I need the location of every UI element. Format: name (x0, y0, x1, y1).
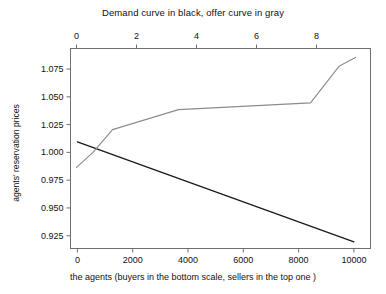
y-tick-label: 1.050 (41, 92, 64, 102)
x-tick-label-top: 8 (314, 31, 319, 41)
x-tick-label-bottom: 8000 (289, 255, 309, 265)
chart-title: Demand curve in black, offer curve in gr… (0, 7, 386, 18)
x-tick-label-bottom: 0 (75, 255, 80, 265)
y-tick-label: 0.975 (41, 175, 64, 185)
x-tick-label-top: 6 (254, 31, 259, 41)
y-tick-label: 1.025 (41, 120, 64, 130)
x-tick-label-top: 0 (74, 31, 79, 41)
x-tick-label-bottom: 2000 (123, 255, 143, 265)
series-line-offer-curve (77, 57, 356, 167)
series-line-demand-curve (77, 142, 354, 242)
x-tick-label-bottom: 10000 (341, 255, 366, 265)
x-tick-label-top: 4 (194, 31, 199, 41)
x-tick-label-bottom: 4000 (178, 255, 198, 265)
y-tick-label: 1.075 (41, 64, 64, 74)
y-axis-label: agents' reservation prices (11, 73, 21, 233)
chart-figure: Demand curve in black, offer curve in gr… (0, 0, 386, 294)
x-tick-label-bottom: 6000 (233, 255, 253, 265)
y-tick-label: 0.950 (41, 203, 64, 213)
x-axis-label: the agents (buyers in the bottom scale, … (0, 272, 386, 282)
x-tick-label-top: 2 (134, 31, 139, 41)
y-tick-label: 0.925 (41, 231, 64, 241)
plot-frame (71, 49, 371, 249)
y-tick-label: 1.000 (41, 147, 64, 157)
